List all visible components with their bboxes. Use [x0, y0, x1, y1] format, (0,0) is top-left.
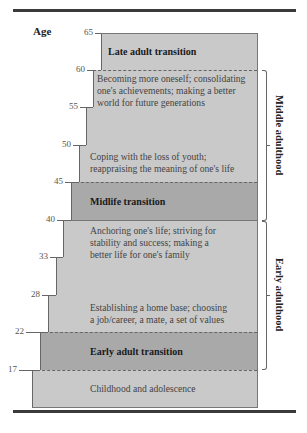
tick-mark-22 — [26, 332, 48, 333]
early-adulthood-label: Early adulthood — [274, 258, 285, 331]
dashed-line-60 — [93, 70, 257, 71]
band-outline-bottom — [32, 407, 258, 408]
early-adult-transition-title: Early adult transition — [90, 346, 183, 357]
tick-45: 45 — [39, 176, 63, 186]
dashed-line-45 — [71, 182, 257, 183]
band-50-60-text: Becoming more oneself; consolidating one… — [97, 73, 245, 109]
band-45-50-text: Coping with the loss of youth; reapprais… — [90, 151, 234, 175]
tick-mark-33 — [50, 257, 63, 258]
tick-mark-40 — [57, 220, 71, 221]
text-line: one's achievements; making a better — [97, 85, 245, 97]
early-adulthood-bracket-point — [266, 295, 270, 296]
text-line: a job/career, a mate, a set of values — [90, 314, 227, 326]
band-28-33 — [56, 257, 257, 295]
tick-22: 22 — [0, 326, 24, 336]
tick-mark-17 — [19, 370, 40, 371]
bottom-rule — [13, 410, 296, 413]
tick-28: 28 — [16, 289, 40, 299]
tick-mark-65 — [95, 33, 101, 34]
text-line: better life for one's family — [90, 249, 216, 261]
tick-17: 17 — [0, 364, 17, 374]
age-axis-label: Age — [33, 25, 51, 37]
middle-adulthood-bracket-point — [266, 145, 270, 146]
tick-60: 60 — [61, 64, 85, 74]
middle-adulthood-label: Middle adulthood — [274, 95, 285, 175]
tick-mark-28 — [42, 295, 56, 296]
tick-33: 33 — [24, 251, 48, 261]
tick-mark-55 — [80, 107, 93, 108]
late-adult-transition-title: Late adult transition — [108, 46, 196, 57]
band-33-40-text: Anchoring one's life; striving for stabi… — [90, 225, 216, 261]
text-line: Coping with the loss of youth; — [90, 151, 234, 163]
text-line: stability and success; making a — [90, 237, 216, 249]
tick-50: 50 — [47, 139, 71, 149]
tick-55: 55 — [54, 101, 78, 111]
band-22-28-text: Establishing a home base; choosing a job… — [90, 302, 227, 326]
childhood-text: Childhood and adolescence — [90, 383, 196, 395]
tick-mark-45 — [65, 182, 79, 183]
text-line: Anchoring one's life; striving for — [90, 225, 216, 237]
text-line: reappraising the meaning of one's life — [90, 163, 234, 175]
band-55-60-lower — [86, 107, 257, 145]
dashed-line-22 — [40, 332, 257, 333]
panel-right-edge — [257, 33, 258, 408]
text-line: Becoming more oneself; consolidating — [97, 73, 245, 85]
text-line: Establishing a home base; choosing — [90, 302, 227, 314]
top-rule — [13, 9, 296, 12]
tick-mark-50 — [73, 145, 86, 146]
tick-40: 40 — [31, 214, 55, 224]
midlife-transition-title: Midlife transition — [90, 196, 165, 207]
text-line: world for future generations — [97, 97, 245, 109]
tick-65: 65 — [69, 27, 93, 37]
tick-mark-60 — [87, 70, 93, 71]
dashed-line-17 — [32, 370, 257, 371]
